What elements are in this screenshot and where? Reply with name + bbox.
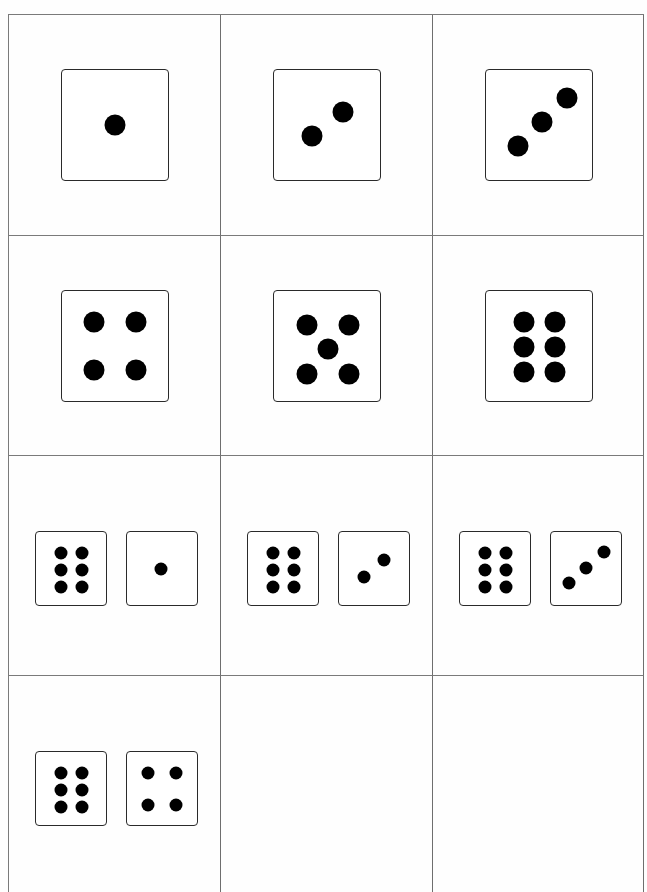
pip-dot-icon [556, 87, 577, 108]
pip-dot-icon [142, 798, 155, 811]
die-face-two-icon [273, 69, 381, 181]
pip-dot-icon [54, 767, 67, 780]
dice-card-sheet [0, 0, 647, 892]
pip-dot-icon [75, 767, 88, 780]
die-face-three-icon [550, 531, 622, 606]
pip-dot-icon [266, 547, 279, 560]
card-12 [433, 676, 644, 892]
pip-dot-icon [126, 360, 147, 381]
pip-dot-icon [142, 767, 155, 780]
pip-dot-icon [75, 800, 88, 813]
pip-dot-icon [266, 563, 279, 576]
card-3 [433, 15, 644, 236]
pip-dot-icon [544, 362, 565, 383]
card-2 [221, 15, 433, 236]
pip-dot-icon [296, 315, 317, 336]
pip-dot-icon [83, 360, 104, 381]
pip-dot-icon [478, 547, 491, 560]
pip-dot-icon [544, 311, 565, 332]
die-face-five-icon [273, 290, 381, 402]
die-face-one-icon [126, 531, 198, 606]
pip-dot-icon [332, 101, 353, 122]
die-face-six-icon [459, 531, 531, 606]
card-grid [8, 14, 644, 892]
card-1 [9, 15, 221, 236]
die-face-six-icon [35, 531, 107, 606]
pip-dot-icon [514, 362, 535, 383]
pip-dot-icon [532, 111, 553, 132]
pip-dot-icon [302, 126, 323, 147]
pip-dot-icon [75, 547, 88, 560]
die-face-three-icon [485, 69, 593, 181]
pip-dot-icon [339, 363, 360, 384]
pip-dot-icon [544, 337, 565, 358]
pip-dot-icon [75, 783, 88, 796]
card-7 [9, 456, 221, 676]
pip-dot-icon [266, 580, 279, 593]
card-6 [433, 236, 644, 456]
pip-dot-icon [514, 311, 535, 332]
die-face-six-icon [247, 531, 319, 606]
die-face-six-icon [35, 751, 107, 826]
pip-dot-icon [126, 311, 147, 332]
pip-dot-icon [170, 798, 183, 811]
die-face-four-icon [126, 751, 198, 826]
pip-dot-icon [357, 570, 370, 583]
pip-dot-icon [597, 545, 610, 558]
pip-dot-icon [54, 563, 67, 576]
pip-dot-icon [54, 783, 67, 796]
die-face-two-icon [338, 531, 410, 606]
pip-dot-icon [499, 580, 512, 593]
pip-dot-icon [287, 580, 300, 593]
pip-dot-icon [296, 363, 317, 384]
die-face-four-icon [61, 290, 169, 402]
card-5 [221, 236, 433, 456]
pip-dot-icon [499, 547, 512, 560]
pip-dot-icon [580, 561, 593, 574]
pip-dot-icon [54, 800, 67, 813]
pip-dot-icon [105, 115, 126, 136]
pip-dot-icon [478, 563, 491, 576]
die-face-one-icon [61, 69, 169, 181]
pip-dot-icon [170, 767, 183, 780]
pip-dot-icon [507, 135, 528, 156]
pip-dot-icon [499, 563, 512, 576]
pip-dot-icon [54, 580, 67, 593]
card-8 [221, 456, 433, 676]
pip-dot-icon [54, 547, 67, 560]
pip-dot-icon [377, 553, 390, 566]
card-9 [433, 456, 644, 676]
pip-dot-icon [83, 311, 104, 332]
pip-dot-icon [287, 547, 300, 560]
pip-dot-icon [75, 580, 88, 593]
pip-dot-icon [514, 337, 535, 358]
pip-dot-icon [478, 580, 491, 593]
pip-dot-icon [318, 339, 339, 360]
pip-dot-icon [154, 562, 167, 575]
die-face-six-icon [485, 290, 593, 402]
pip-dot-icon [339, 315, 360, 336]
pip-dot-icon [287, 563, 300, 576]
pip-dot-icon [75, 563, 88, 576]
card-11 [221, 676, 433, 892]
card-10 [9, 676, 221, 892]
pip-dot-icon [563, 577, 576, 590]
card-4 [9, 236, 221, 456]
